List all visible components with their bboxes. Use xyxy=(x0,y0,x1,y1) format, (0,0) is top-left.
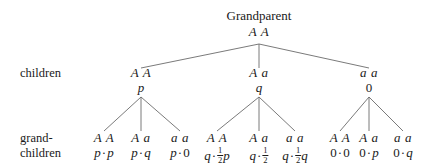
grandchild-genotype-7: A A xyxy=(330,131,350,145)
inheritance-tree-diagram: Grandparent A A children grand- children… xyxy=(0,0,437,166)
row-label-children: children xyxy=(20,66,61,81)
edge-child-3-to-gc-7 xyxy=(340,97,369,131)
operator-dot: · xyxy=(289,148,295,163)
grandchild-formula-7: 0·0 xyxy=(330,146,350,160)
grandchild-formula-3: p·0 xyxy=(170,146,189,160)
grandchild-formula-6-right: q xyxy=(301,148,308,163)
grandchild-node-9: a a 0·q xyxy=(393,131,412,160)
one-half-fraction: 12 xyxy=(263,146,268,164)
one-half-fraction: 12 xyxy=(296,146,301,164)
grandchild-formula-5-left: q xyxy=(249,148,256,163)
child-genotype-3: a a xyxy=(360,66,378,80)
grandchild-formula-6-left: q xyxy=(282,148,289,163)
grandchild-formula-4: q·12p xyxy=(204,146,230,164)
root-genotype: A A xyxy=(249,25,269,39)
child-node-1: A A p xyxy=(131,66,151,95)
fraction-denominator: 2 xyxy=(296,156,301,165)
grandchild-formula-9-right: q xyxy=(406,145,413,160)
row-label-grandchildren-line2: children xyxy=(20,146,61,160)
child-node-3: a a 0 xyxy=(360,66,378,95)
grandchild-node-2: A a p·q xyxy=(131,131,150,160)
grandchild-formula-2: p·q xyxy=(131,146,150,160)
grandchild-formula-9-left: 0 xyxy=(393,145,400,160)
fraction-denominator: 2 xyxy=(218,156,223,165)
grandchild-formula-4-right: p xyxy=(223,148,230,163)
grandchild-genotype-4: A A xyxy=(204,131,230,145)
edge-child-3-to-gc-9 xyxy=(369,97,403,131)
root-title: Grandparent xyxy=(227,8,292,24)
grandchild-formula-3-left: p xyxy=(170,145,177,160)
grandchild-node-5: A a q·12 xyxy=(249,131,268,164)
grandchild-node-1: A A p·p xyxy=(94,131,114,160)
grandchild-formula-7-right: 0 xyxy=(343,145,350,160)
fraction-denominator: 2 xyxy=(263,156,268,165)
root-node: A A xyxy=(249,25,269,39)
edge-root-to-child-1 xyxy=(141,44,259,68)
grandchild-formula-8-left: 0 xyxy=(359,145,366,160)
child-frequency-1: p xyxy=(131,81,151,95)
grandchild-formula-5: q·12 xyxy=(249,146,268,164)
edge-child-1-to-gc-1 xyxy=(104,97,141,131)
grandchild-genotype-1: A A xyxy=(94,131,114,145)
grandchild-formula-9: 0·q xyxy=(393,146,412,160)
grandchild-genotype-9: a a xyxy=(393,131,412,145)
one-half-fraction: 12 xyxy=(218,146,223,164)
grandchild-formula-2-right: q xyxy=(144,145,151,160)
edge-child-2-to-gc-4 xyxy=(217,97,259,131)
child-genotype-2: A a xyxy=(249,66,268,80)
row-label-grandchildren: grand- children xyxy=(20,131,61,161)
grandchild-node-7: A A 0·0 xyxy=(330,131,350,160)
grandchild-genotype-5: A a xyxy=(249,131,268,145)
grandchild-node-4: A A q·12p xyxy=(204,131,230,164)
grandchild-formula-8: 0·p xyxy=(359,146,378,160)
row-label-grandchildren-line1: grand- xyxy=(20,131,53,145)
edge-child-1-to-gc-3 xyxy=(141,97,180,131)
child-frequency-3: 0 xyxy=(360,81,378,95)
grandchild-formula-3-right: 0 xyxy=(183,145,190,160)
grandchild-formula-6: q·12q xyxy=(282,146,308,164)
grandchild-formula-2-left: p xyxy=(131,145,138,160)
grandchild-formula-8-right: p xyxy=(372,145,379,160)
child-node-2: A a q xyxy=(249,66,268,95)
grandchild-node-8: A a 0·p xyxy=(359,131,378,160)
grandchild-formula-4-left: q xyxy=(204,148,211,163)
grandchild-formula-1: p·p xyxy=(94,146,114,160)
child-frequency-2: q xyxy=(249,81,268,95)
grandchild-formula-1-right: p xyxy=(107,145,114,160)
edge-root-to-child-3 xyxy=(259,44,369,68)
grandchild-genotype-2: A a xyxy=(131,131,150,145)
operator-dot: · xyxy=(256,148,262,163)
edge-child-2-to-gc-6 xyxy=(259,97,295,131)
grandchild-genotype-8: A a xyxy=(359,131,378,145)
grandchild-genotype-6: a a xyxy=(282,131,308,145)
child-genotype-1: A A xyxy=(131,66,151,80)
grandchild-node-6: a a q·12q xyxy=(282,131,308,164)
operator-dot: · xyxy=(211,148,217,163)
grandchild-node-3: a a p·0 xyxy=(170,131,189,160)
grandchild-genotype-3: a a xyxy=(170,131,189,145)
